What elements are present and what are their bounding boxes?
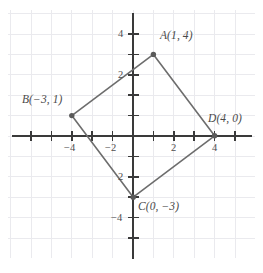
point-b <box>69 113 74 118</box>
x-tick-label-pos4: 4 <box>212 143 217 154</box>
point-c <box>131 195 136 200</box>
point-label-a: A(1, 4) <box>160 30 193 42</box>
y-tick-label-pos4: 4 <box>118 29 123 40</box>
y-tick-label-neg2: 2 <box>118 172 123 183</box>
point-a <box>151 52 156 57</box>
vertex-points <box>69 52 217 200</box>
y-tick-label-pos2: 2 <box>118 70 123 81</box>
x-tick-label-neg2: −2 <box>105 143 116 154</box>
point-label-d: D(4, 0) <box>208 113 242 125</box>
point-label-c: C(0, −3) <box>138 201 179 213</box>
coordinate-plane-figure: A(1, 4) B(−3, 1) C(0, −3) D(4, 0) −4 −2 … <box>0 0 263 273</box>
x-tick-label-neg4: −4 <box>64 143 75 154</box>
quadrilateral-abcd <box>72 54 215 197</box>
grid-lines <box>8 10 255 258</box>
coordinate-plane-svg <box>0 0 263 273</box>
x-tick-label-pos2: 2 <box>171 143 176 154</box>
y-tick-label-neg4: −4 <box>111 213 122 224</box>
point-label-b: B(−3, 1) <box>22 94 63 106</box>
point-d <box>212 133 217 138</box>
